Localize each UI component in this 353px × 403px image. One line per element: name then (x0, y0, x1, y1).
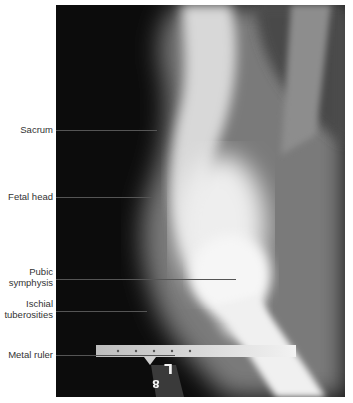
label-pubic-line2: symphysis (9, 277, 53, 288)
leader-line-ischial-tuberosities (56, 311, 147, 312)
leader-line-fetal-head (56, 197, 152, 198)
label-sacrum: Sacrum (20, 124, 53, 135)
label-ischial-line2: tuberosities (4, 309, 53, 320)
leader-line-sacrum (56, 130, 157, 131)
leader-line-pubic-symphysis (56, 279, 236, 280)
film-marker-letter: L (164, 361, 173, 377)
label-ischial-line1: Ischial (4, 298, 53, 309)
label-ischial-tuberosities: Ischial tuberosities (4, 298, 53, 320)
label-fetal-head: Fetal head (8, 191, 53, 202)
label-pubic-line1: Pubic (9, 266, 53, 277)
label-metal-ruler: Metal ruler (8, 349, 53, 360)
leader-line-metal-ruler (56, 355, 175, 356)
label-pubic-symphysis: Pubic symphysis (9, 266, 53, 288)
xray-image: L 8 (56, 5, 345, 397)
film-marker-digit: 8 (152, 377, 160, 390)
